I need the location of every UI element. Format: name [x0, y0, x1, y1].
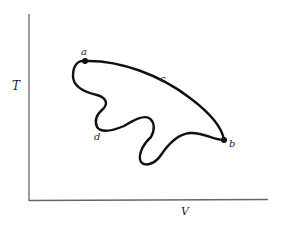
y-axis-label: T	[12, 79, 21, 93]
path-c-label: c	[160, 73, 166, 84]
x-axis-label: V	[181, 205, 190, 218]
point-b-marker	[221, 137, 227, 143]
point-b-label: b	[229, 138, 235, 149]
path-d-curve	[73, 61, 224, 164]
pv-diagram: a b c d T V	[0, 0, 281, 226]
x-axis	[29, 200, 268, 201]
point-a-label: a	[81, 46, 87, 57]
path-d-label: d	[94, 131, 100, 142]
point-a-marker	[82, 58, 88, 64]
